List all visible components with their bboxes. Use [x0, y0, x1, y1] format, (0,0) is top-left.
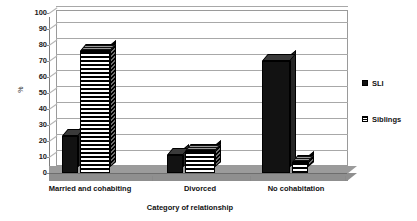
depth-connector-line — [49, 39, 58, 46]
left-wall-depth-lines — [49, 10, 57, 173]
y-tick-label: 90 — [24, 25, 47, 33]
y-tick-label: 30 — [24, 121, 47, 129]
depth-connector-line — [49, 103, 58, 110]
y-tick-label: 50 — [24, 89, 47, 97]
depth-connector-line — [49, 71, 58, 78]
x-axis-tick-mark — [250, 176, 251, 181]
legend-swatch-siblings-icon — [362, 116, 368, 122]
depth-connector-line — [49, 135, 58, 142]
bar-front-face — [167, 155, 183, 173]
x-axis-category-label: Divorced — [145, 184, 255, 193]
bar-side-face — [290, 50, 296, 167]
legend-item-sli: SLI — [362, 78, 401, 88]
gridline — [56, 22, 348, 23]
depth-connector-line — [49, 7, 58, 14]
bar-siblings — [292, 162, 308, 173]
x-axis-category-label: Married and cohabiting — [35, 184, 145, 193]
bar-front-face — [185, 151, 215, 173]
legend-label-sli: SLI — [372, 79, 384, 88]
y-axis-title: % — [17, 79, 24, 101]
x-axis-category-label: No cohabitation — [241, 184, 351, 193]
bar-top-face — [80, 44, 116, 51]
y-tick-label: 20 — [24, 137, 47, 145]
y-tick-label: 0 — [24, 169, 47, 177]
depth-connector-line — [49, 151, 58, 158]
depth-connector-line — [49, 55, 58, 62]
x-axis-tick-mark — [152, 176, 153, 181]
gridline — [56, 6, 348, 7]
depth-connector-line — [49, 23, 58, 30]
y-tick-label: 10 — [24, 153, 47, 161]
gridline — [56, 38, 348, 39]
bar-top-face — [262, 54, 296, 61]
bar-top-face — [185, 144, 221, 151]
floor-front-face — [49, 173, 348, 181]
bar-siblings — [80, 51, 110, 173]
bar-front-face — [80, 51, 110, 173]
bar-front-face — [262, 61, 290, 173]
legend-item-siblings: Siblings — [362, 114, 401, 124]
depth-connector-line — [49, 119, 58, 126]
y-tick-label: 60 — [24, 73, 47, 81]
legend-label-siblings: Siblings — [372, 115, 401, 124]
bar-chart: % 0102030405060708090100 Married and coh… — [0, 0, 417, 221]
bar-front-face — [62, 136, 78, 173]
depth-connector-line — [49, 87, 58, 94]
legend-swatch-sli-icon — [362, 80, 368, 86]
bar-front-face — [292, 162, 308, 173]
x-axis-tick-mark — [345, 176, 346, 181]
y-tick-label: 40 — [24, 105, 47, 113]
bar-sli — [167, 155, 183, 173]
y-tick-label: 100 — [24, 9, 47, 17]
floor-slant-front — [347, 173, 357, 181]
y-tick-label: 70 — [24, 57, 47, 65]
bar-side-face — [110, 40, 116, 167]
bar-sli — [262, 61, 290, 173]
x-axis-title: Category of relationship — [0, 203, 380, 212]
bar-siblings — [185, 151, 215, 173]
y-tick-label: 80 — [24, 41, 47, 49]
chart-legend: SLI Siblings — [362, 78, 401, 150]
bar-sli — [62, 136, 78, 173]
